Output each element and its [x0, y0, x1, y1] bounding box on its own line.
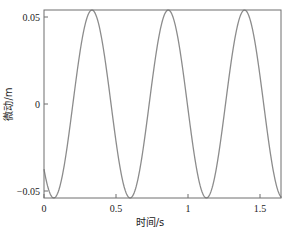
- x-tick-label: 0: [42, 203, 47, 214]
- x-axis-ticks: 00.511.5: [42, 194, 267, 214]
- plot-frame: [44, 10, 281, 198]
- line-chart: 00.511.5 −0.0500.05 时间/s 微动/m: [0, 0, 290, 234]
- x-tick-label: 1: [186, 203, 191, 214]
- x-tick-label: 0.5: [110, 203, 123, 214]
- y-tick-label: 0: [35, 99, 40, 110]
- y-axis-ticks: −0.0500.05: [17, 12, 48, 197]
- x-tick-label: 1.5: [254, 203, 267, 214]
- y-tick-label: 0.05: [23, 12, 41, 23]
- y-axis-label: 微动/m: [2, 87, 14, 120]
- y-tick-label: −0.05: [17, 186, 40, 197]
- series-line: [44, 10, 282, 198]
- x-axis-label: 时间/s: [136, 216, 165, 228]
